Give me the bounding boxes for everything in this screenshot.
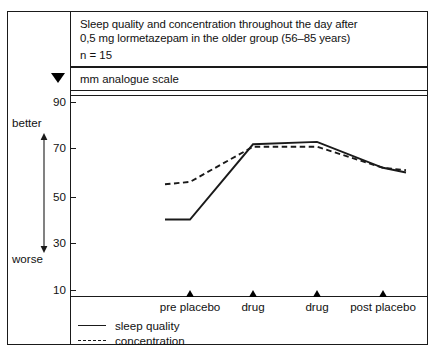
figure-container: Sleep quality and concentration througho… [0, 0, 442, 356]
legend-item-concentration: concentration [78, 333, 185, 348]
legend: sleep quality concentration [78, 318, 185, 348]
legend-label-concentration: concentration [115, 335, 185, 347]
series-line-sleep-quality [165, 142, 406, 220]
legend-label-sleep-quality: sleep quality [115, 320, 179, 332]
legend-item-sleep-quality: sleep quality [78, 318, 185, 333]
legend-swatch-solid-line-icon [78, 325, 106, 326]
legend-swatch-dashed-line-icon [78, 340, 106, 341]
series-line-concentration [165, 147, 406, 185]
plot-lines [0, 0, 442, 356]
